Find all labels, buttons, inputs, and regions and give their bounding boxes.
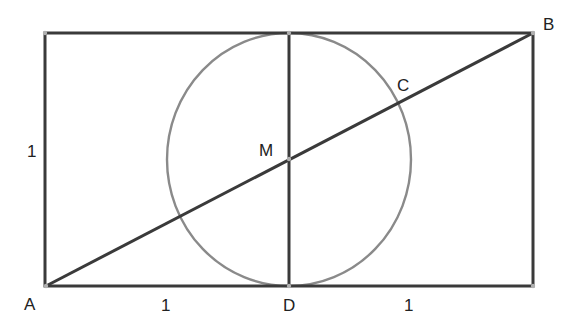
point-a [44,284,48,288]
label-d: D [283,296,295,315]
label-b: B [543,15,554,34]
label-bottom-left: 1 [161,296,170,315]
point-bottom-right [531,284,535,288]
label-bottom-right: 1 [404,296,413,315]
label-m: M [259,141,273,160]
point-top-mid [287,31,291,35]
point-top-left [43,31,47,35]
point-b [531,31,535,35]
point-m [287,157,291,161]
label-c: C [397,76,409,95]
label-a: A [24,295,36,314]
label-side-left: 1 [27,142,36,161]
point-d [287,284,291,288]
geometry-diagram: A B C D M 1 1 1 [0,0,578,334]
